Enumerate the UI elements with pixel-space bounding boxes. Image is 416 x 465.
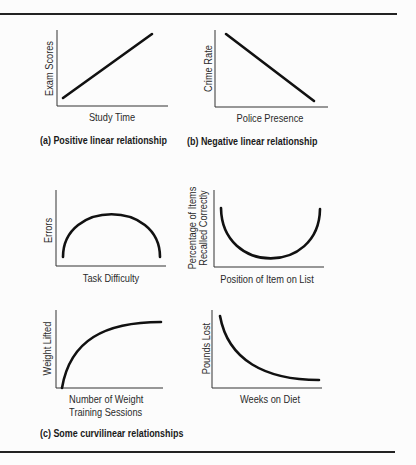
plot-crime-rate [215, 30, 328, 107]
plot-pounds-lost [212, 310, 322, 388]
ylabel-crime-rate: Crime Rate [203, 33, 214, 103]
xlabel-weight-sessions-line1: Number of Weight [55, 393, 161, 406]
xlabel-police-presence: Police Presence [222, 112, 319, 124]
xlabel-weight-sessions-line2: Training Sessions [55, 406, 161, 419]
ylabel-recall-line2: Recalled Correctly [198, 184, 209, 272]
caption-c: (c) Some curvilinear relationships [40, 427, 183, 439]
ylabel-weight-lifted: Weight Lifted [42, 313, 53, 383]
caption-b: (b) Negative linear relationship [187, 135, 317, 147]
plot-recall [214, 190, 324, 267]
ylabel-exam-scores: Exam Scores [44, 33, 55, 103]
ylabel-errors: Errors [43, 195, 54, 265]
plot-weight-lifted [56, 310, 163, 388]
ylabel-recall: Percentage of Items Recalled Correctly [187, 184, 211, 272]
plot-exam-scores [57, 30, 168, 106]
xlabel-weight-sessions: Number of Weight Training Sessions [55, 393, 161, 419]
xlabel-weeks-on-diet: Weeks on Diet [226, 393, 314, 405]
xlabel-position-of-item: Position of Item on List [214, 273, 320, 285]
xlabel-task-difficulty: Task Difficulty [67, 272, 155, 284]
xlabel-study-time: Study Time [68, 111, 156, 123]
plot-errors [56, 190, 166, 266]
caption-a: (a) Positive linear relationship [40, 134, 167, 146]
ylabel-pounds-lost: Pounds Lost [201, 313, 212, 383]
